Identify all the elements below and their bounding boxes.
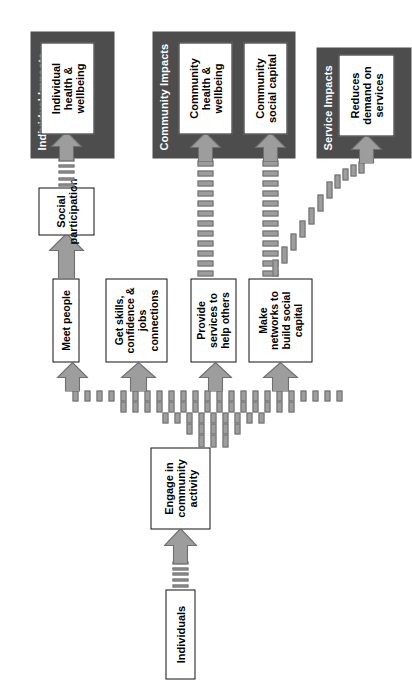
- connector-social-participation-to-individual-health: [58, 158, 74, 186]
- flowchart: Individual Impacts Community Impacts Ser…: [0, 0, 412, 687]
- diagram-canvas: Individual Impacts Community Impacts Ser…: [0, 0, 412, 687]
- node-meet-people[interactable]: Meet people: [52, 278, 79, 362]
- arrow-engage-to-get-skills: [120, 361, 156, 391]
- node-reduces-demand-on-services[interactable]: Reducesdemand onservices: [338, 54, 394, 136]
- node-make-networks[interactable]: Makenetworks tobuild socialcapital: [248, 278, 312, 362]
- node-provide-services-label: Provideservices tohelp others: [195, 290, 230, 351]
- arrow-engage-to-provide-services: [198, 361, 232, 391]
- node-individuals[interactable]: Individuals: [165, 589, 195, 679]
- node-individuals-label: Individuals: [174, 603, 186, 664]
- arrow-make-networks-to-community-social-capital: [254, 131, 286, 161]
- node-get-skills-label: Get skills,confidence &jobsconnections: [113, 285, 160, 355]
- node-get-skills[interactable]: Get skills,confidence &jobsconnections: [105, 278, 167, 362]
- node-provide-services[interactable]: Provideservices tohelp others: [190, 278, 236, 362]
- arrow-reduces-demand-on-services: [350, 133, 382, 163]
- connector-make-networks-to-reduces-services: [270, 158, 366, 276]
- arrow-provide-services-to-community-health: [189, 131, 221, 161]
- arrow-individuals-to-engage: [163, 527, 197, 563]
- node-make-networks-label: Makenetworks tobuild socialcapital: [257, 289, 304, 352]
- node-community-health-label: Communityhealth &wellbeing: [187, 56, 224, 121]
- node-engage-label: Engage incommunityactivity: [162, 457, 199, 520]
- connector-individuals-to-engage: [172, 561, 188, 587]
- node-community-social-capital-label: Communitysocial capital: [253, 51, 278, 124]
- node-individual-health-wellbeing[interactable]: Individualhealth &wellbeing: [40, 42, 94, 134]
- node-community-social-capital[interactable]: Communitysocial capital: [243, 42, 287, 134]
- node-meet-people-label: Meet people: [60, 288, 72, 353]
- arrow-engage-to-make-networks: [262, 361, 298, 391]
- node-social-participation[interactable]: Socialparticipation: [38, 187, 94, 235]
- node-engage-in-community-activity[interactable]: Engage incommunityactivity: [150, 447, 210, 529]
- panel-service-impacts-label: Service Impacts: [322, 65, 333, 150]
- connector-provide-services-to-community-health: [197, 160, 213, 276]
- arrow-engage-to-meet-people: [56, 361, 88, 391]
- arrow-social-participation-to-individual-health: [50, 130, 82, 160]
- panel-community-impacts-label: Community Impacts: [158, 43, 169, 150]
- node-reduces-demand-label: Reducesdemand onservices: [348, 64, 385, 127]
- node-individual-health-label: Individualhealth &wellbeing: [49, 60, 86, 115]
- node-community-health-wellbeing[interactable]: Communityhealth &wellbeing: [178, 42, 232, 134]
